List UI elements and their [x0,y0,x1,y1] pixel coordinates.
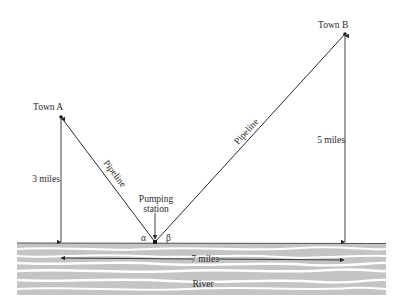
distance-label: 7 miles [191,254,219,264]
pumping-station-point [153,240,157,244]
angle-alpha-label: α [141,233,146,243]
town-a-label: Town A [33,102,63,112]
pipeline-diagram: Town A Town B 3 miles 5 miles Pipeline P… [0,0,404,303]
town-b-point [343,32,347,36]
town-b-label: Town B [318,20,348,30]
pumping-station-label-line1: Pumping [139,194,174,204]
pumping-station-label-line2: station [143,204,169,214]
pipeline-left [61,117,155,242]
town-b-height-label: 5 miles [317,135,345,145]
town-a-height-label: 3 miles [32,174,60,184]
river-label: River [192,279,214,289]
angle-beta-label: β [166,233,171,243]
town-a-point [59,115,63,119]
pipeline-left-label: Pipeline [101,158,128,189]
